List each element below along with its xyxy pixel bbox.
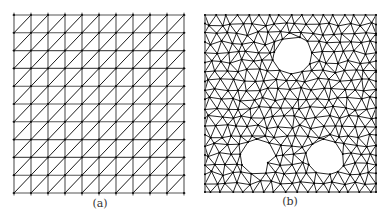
mesh-node bbox=[248, 14, 250, 16]
mesh-node bbox=[301, 14, 303, 16]
mesh-edge bbox=[278, 127, 293, 128]
mesh-node bbox=[369, 133, 371, 135]
mesh-edge bbox=[292, 173, 296, 183]
grid-diagonal-line bbox=[14, 157, 31, 175]
mesh-edge bbox=[351, 15, 354, 24]
mesh-edge bbox=[221, 53, 229, 62]
mesh-edge bbox=[279, 15, 287, 23]
mesh-node bbox=[98, 139, 100, 141]
mesh-edge bbox=[232, 44, 238, 52]
mesh-edge bbox=[217, 33, 222, 41]
grid-diagonal-line bbox=[14, 33, 31, 51]
mesh-node bbox=[312, 33, 314, 35]
mesh-edge bbox=[303, 163, 306, 173]
mesh-node bbox=[375, 145, 377, 147]
mesh-edge bbox=[218, 184, 220, 192]
grid-diagonal-line bbox=[167, 122, 184, 140]
mesh-edge bbox=[267, 60, 272, 71]
mesh-node bbox=[280, 183, 282, 185]
grid-diagonal-line bbox=[48, 122, 65, 140]
mesh-node bbox=[368, 78, 370, 80]
mesh-node bbox=[339, 80, 341, 82]
mesh-edge bbox=[241, 172, 250, 185]
mesh-node bbox=[204, 31, 206, 33]
mesh-node bbox=[233, 78, 235, 80]
mesh-edge bbox=[245, 81, 247, 91]
mesh-node bbox=[208, 25, 210, 27]
mesh-edge bbox=[282, 37, 299, 39]
mesh-node bbox=[115, 85, 117, 87]
mesh-edge bbox=[227, 24, 230, 32]
mesh-edge bbox=[354, 33, 366, 34]
mesh-node bbox=[204, 52, 206, 54]
mesh-node bbox=[259, 180, 261, 182]
mesh-node bbox=[343, 165, 345, 167]
mesh-edge bbox=[327, 34, 334, 42]
mesh-edge bbox=[281, 174, 285, 184]
grid-diagonal-line bbox=[150, 104, 167, 122]
mesh-node bbox=[295, 79, 297, 81]
mesh-node bbox=[64, 139, 66, 141]
grid-diagonal-line bbox=[48, 175, 65, 193]
mesh-node bbox=[204, 23, 206, 25]
grid-diagonal-line bbox=[99, 140, 116, 158]
mesh-edge bbox=[287, 23, 290, 33]
mesh-edge bbox=[208, 115, 222, 117]
mesh-edge bbox=[237, 164, 241, 172]
mesh-node bbox=[353, 14, 355, 16]
mesh-node bbox=[350, 79, 352, 81]
grid-diagonal-line bbox=[133, 86, 150, 104]
grid-diagonal-line bbox=[99, 15, 116, 33]
mesh-node bbox=[216, 108, 218, 110]
mesh-node bbox=[356, 144, 358, 146]
mesh-edge bbox=[322, 52, 326, 64]
mesh-edge bbox=[221, 91, 228, 99]
mesh-node bbox=[222, 174, 224, 176]
mesh-edge bbox=[247, 69, 256, 81]
mesh-node bbox=[115, 103, 117, 105]
mesh-edge bbox=[208, 80, 214, 89]
mesh-node bbox=[300, 87, 302, 89]
mesh-edge bbox=[361, 154, 370, 155]
mesh-edge bbox=[278, 127, 288, 136]
grid-diagonal-line bbox=[116, 175, 133, 193]
mesh-edge bbox=[245, 51, 258, 53]
mesh-edge bbox=[355, 109, 366, 110]
mesh-edge bbox=[205, 89, 215, 91]
mesh-edge bbox=[276, 79, 277, 88]
mesh-edge bbox=[310, 64, 312, 71]
grid-diagonal-line bbox=[82, 104, 99, 122]
mesh-node bbox=[347, 191, 349, 193]
mesh-edge bbox=[209, 15, 216, 26]
mesh-node bbox=[207, 114, 209, 116]
mesh-edge bbox=[296, 163, 303, 173]
mesh-node bbox=[183, 121, 185, 123]
mesh-node bbox=[115, 156, 117, 158]
mesh-edge bbox=[208, 71, 215, 80]
mesh-node bbox=[280, 31, 282, 33]
mesh-edge bbox=[247, 126, 252, 136]
mesh-edge bbox=[306, 90, 311, 100]
mesh-edge bbox=[250, 109, 251, 118]
mesh-edge bbox=[310, 107, 315, 118]
mesh-node bbox=[256, 138, 258, 140]
grid-diagonal-line bbox=[65, 122, 82, 140]
mesh-edge bbox=[259, 45, 266, 53]
mesh-node bbox=[259, 90, 261, 92]
mesh-edge bbox=[370, 97, 376, 108]
grid-diagonal-line bbox=[99, 68, 116, 86]
mesh-edge bbox=[285, 99, 293, 108]
mesh-node bbox=[371, 22, 373, 24]
mesh-node bbox=[326, 42, 328, 44]
mesh-edge bbox=[317, 99, 325, 108]
mesh-edge bbox=[335, 64, 338, 73]
mesh-edge bbox=[362, 97, 370, 99]
mesh-edge bbox=[324, 184, 329, 192]
mesh-edge bbox=[266, 15, 270, 26]
mesh-edge bbox=[254, 60, 262, 61]
grid-diagonal-line bbox=[99, 175, 116, 193]
mesh-node bbox=[278, 14, 280, 16]
grid-diagonal-line bbox=[31, 157, 48, 175]
mesh-node bbox=[362, 69, 364, 71]
mesh-node bbox=[204, 164, 206, 166]
